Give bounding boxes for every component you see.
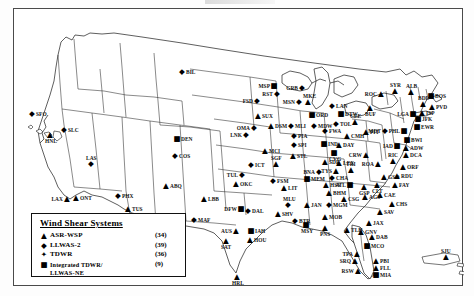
site-label: IAH [255, 229, 265, 234]
legend-count: (34) [155, 231, 179, 241]
site-label: MSY [301, 229, 313, 234]
triangle-marker: ▲ [233, 227, 239, 235]
site-label: CVG [329, 157, 341, 162]
diamond-marker: ◆ [326, 201, 332, 209]
legend-label: Integrated TDWR/ [50, 260, 155, 270]
triangle-marker: ▲ [394, 172, 400, 180]
site-label: LIT [288, 186, 297, 191]
site-label: ROA [362, 162, 374, 167]
site-label: ORD [316, 113, 328, 118]
site-label: BNA [303, 170, 315, 175]
triangle-marker: ▲ [419, 109, 425, 117]
site-label: MSN [283, 100, 295, 105]
site-label: LNK [230, 133, 242, 138]
square-marker: ■ [320, 140, 327, 148]
diamond-marker: ◆ [254, 97, 260, 105]
site-label: GRB [286, 86, 298, 91]
site-label: SPI [298, 143, 307, 148]
square-marker: ■ [247, 227, 254, 235]
site-label: DSM [275, 124, 287, 129]
triangle-marker: ▲ [201, 195, 207, 203]
square-marker: ■ [308, 111, 315, 119]
site-label: FWA [329, 129, 341, 134]
site-label: BHM [333, 191, 346, 196]
site-label: BWI [411, 138, 422, 143]
triangle-marker: ▲ [268, 122, 274, 130]
site-label: LAN [336, 104, 348, 109]
site-label: MAF [198, 218, 210, 223]
square-marker: ■ [337, 110, 344, 118]
triangle-marker: ▲ [352, 257, 358, 265]
legend-label: LLWAS-2 [50, 241, 155, 251]
site-label: FAY [399, 183, 409, 188]
site-label: MCO [371, 244, 384, 249]
site-label: MLU [283, 197, 296, 202]
legend-row: ■Integrated TDWR/(9) [38, 260, 179, 270]
site-label: IAD [383, 144, 393, 149]
site-label: TOL [340, 122, 351, 127]
diamond-marker: ◆ [172, 152, 178, 160]
triangle-marker: ▲ [322, 213, 328, 221]
legend-label: ASR-WSP [50, 231, 155, 241]
site-label: COS [179, 154, 190, 159]
triangle-marker: ▲ [362, 193, 368, 201]
site-label: JAX [373, 221, 384, 226]
legend-rows: ▲ASR-WSP(34)◆LLWAS-2(39)✦TDWR(36)■Integr… [38, 231, 179, 269]
legend-continuation-label: LLWAS-NE [50, 269, 179, 277]
legend-row: ◆LLWAS-2(39) [38, 241, 179, 251]
site-label: RDU [401, 174, 413, 179]
triangle-marker: ▲ [392, 181, 398, 189]
square-marker: ■ [413, 123, 420, 131]
site-label: CAE [384, 193, 396, 198]
diamond-marker: ◆ [333, 120, 339, 128]
diamond-marker: ◆ [329, 174, 335, 182]
site-label: SRQ [340, 259, 351, 264]
triangle-marker: ▲ [38, 231, 50, 241]
site-label: LAX [51, 197, 63, 202]
diamond-marker: ◆ [61, 126, 67, 134]
site-label: TYS [321, 169, 332, 174]
site-label: SFO [36, 112, 47, 117]
diamond-marker: ◆ [299, 84, 305, 92]
diamond-marker: ◆ [311, 122, 317, 130]
site-label: ORF [407, 165, 419, 170]
triangle-marker: ▲ [281, 184, 287, 192]
diamond-marker: ◆ [292, 217, 298, 225]
site-label: OKC [240, 182, 252, 187]
diamond-marker: ◆ [243, 131, 249, 139]
triangle-marker: ▲ [377, 208, 383, 216]
site-label: CHA [336, 176, 348, 181]
site-label: ADW [410, 146, 423, 151]
site-label: RSW [342, 269, 354, 274]
site-label: SYR [390, 83, 401, 88]
square-marker: ■ [372, 271, 379, 279]
site-label: DFW [224, 207, 237, 212]
site-label: BOS [435, 94, 446, 99]
triangle-marker: ▲ [358, 228, 364, 236]
diamond-marker: ◆ [322, 127, 328, 135]
site-label: DAB [376, 235, 388, 240]
square-marker: ■ [346, 181, 353, 189]
legend-label: TDWR [50, 250, 155, 260]
diamond-marker: ◆ [239, 171, 245, 179]
site-label: STL [297, 154, 307, 159]
site-label: SJU [441, 249, 451, 254]
triangle-marker: ▲ [344, 132, 350, 140]
site-label: CHS [396, 202, 407, 207]
triangle-marker: ▲ [125, 205, 131, 213]
triangle-marker: ▲ [400, 163, 406, 171]
site-label: ROC [365, 92, 377, 97]
site-label: RIC [388, 153, 398, 158]
site-label: SAT [221, 245, 231, 250]
triangle-marker: ▲ [163, 182, 169, 190]
site-label: AUS [221, 229, 232, 234]
site-label: ALB [406, 84, 417, 89]
legend-count: (36) [155, 250, 179, 260]
legend-row: ▲ASR-WSP(34) [38, 231, 179, 241]
site-label: PHL [389, 129, 400, 134]
site-label: SLC [68, 128, 79, 133]
site-label: MSP [258, 84, 270, 89]
triangle-marker: ▲ [73, 194, 79, 202]
square-marker: ■ [38, 260, 50, 270]
site-label: PHX [122, 194, 134, 199]
